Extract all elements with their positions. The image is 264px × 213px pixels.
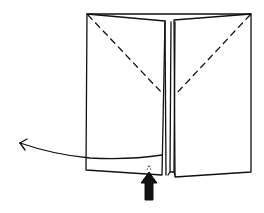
right-crease-line <box>175 15 250 95</box>
push-arrow-icon <box>141 165 157 200</box>
left-crease-line <box>88 15 162 93</box>
right-panel <box>174 14 251 177</box>
left-panel <box>86 14 165 175</box>
pull-arrow-icon <box>20 139 162 159</box>
center-folds <box>165 21 175 175</box>
origami-diagram <box>0 0 264 213</box>
